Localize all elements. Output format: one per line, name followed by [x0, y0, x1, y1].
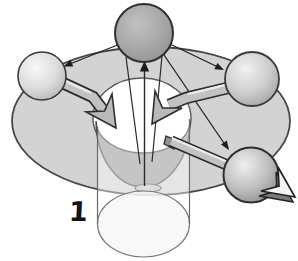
sphere-top — [115, 4, 173, 62]
sphere-right — [225, 52, 279, 106]
cylinder-bottom-face — [98, 191, 190, 257]
figure-label: 1 — [68, 198, 88, 225]
sphere-left — [18, 52, 66, 100]
rotation-diagram — [0, 0, 298, 261]
figure-canvas: 1 — [0, 0, 298, 261]
